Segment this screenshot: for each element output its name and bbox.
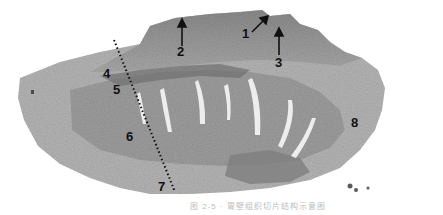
figure-caption: 图 2-5 · 胃壁组织切片结构示意图 xyxy=(190,200,360,210)
label-4: 4 xyxy=(103,67,110,80)
label-8: 8 xyxy=(351,116,358,129)
label-2: 2 xyxy=(177,45,184,58)
label-7: 7 xyxy=(158,180,165,193)
label-1: 1 xyxy=(242,27,249,40)
label-5: 5 xyxy=(113,83,120,96)
label-3: 3 xyxy=(275,56,282,69)
tissue-section-image xyxy=(0,0,443,215)
label-6: 6 xyxy=(126,130,133,143)
histology-figure: 1 2 3 4 5 6 7 8 图 2-5 · 胃壁组织切片结构示意图 xyxy=(0,0,443,215)
